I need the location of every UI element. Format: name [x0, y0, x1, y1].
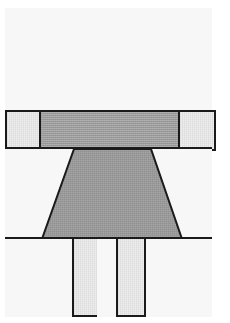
- center-slab: [39, 110, 182, 151]
- figure-root: [0, 0, 230, 323]
- pedestal-band-background: [5, 149, 212, 239]
- right-shoulder-block: [178, 110, 216, 151]
- divider-3: [5, 237, 212, 239]
- divider-2: [5, 147, 212, 149]
- figure-frame: [5, 8, 212, 313]
- right-leg: [116, 237, 146, 317]
- upper-blank-band: [5, 8, 212, 112]
- divider-1: [5, 110, 212, 112]
- left-shoulder-block: [5, 110, 43, 151]
